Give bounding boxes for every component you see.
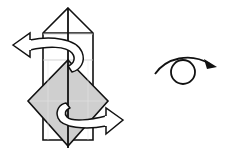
rotate-icon bbox=[155, 58, 217, 84]
origami-diagram bbox=[0, 0, 234, 150]
